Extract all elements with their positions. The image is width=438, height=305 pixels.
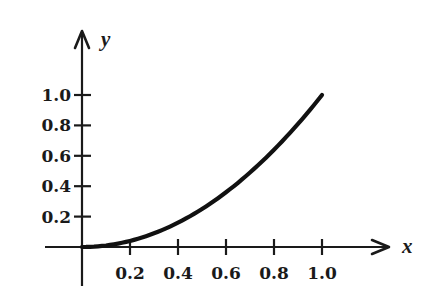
chart-canvas: x y 0.20.40.60.81.0 0.20.40.60.81.0 — [0, 0, 438, 305]
x-ticks: 0.20.40.60.81.0 — [115, 239, 337, 283]
y-tick-label: 0.2 — [41, 207, 71, 227]
x-tick-label: 0.8 — [259, 263, 289, 283]
x-tick-label: 0.4 — [163, 263, 193, 283]
y-tick-label: 1.0 — [41, 85, 71, 105]
data-curve — [82, 95, 322, 247]
x-tick-label: 0.2 — [115, 263, 145, 283]
y-tick-label: 0.6 — [41, 146, 71, 166]
y-tick-label: 0.8 — [41, 115, 71, 135]
x-tick-label: 1.0 — [307, 263, 337, 283]
y-tick-label: 0.4 — [41, 176, 71, 196]
y-axis-label: y — [98, 27, 111, 51]
x-tick-label: 0.6 — [211, 263, 241, 283]
y-ticks: 0.20.40.60.81.0 — [41, 85, 91, 227]
x-axis-label: x — [401, 234, 413, 258]
